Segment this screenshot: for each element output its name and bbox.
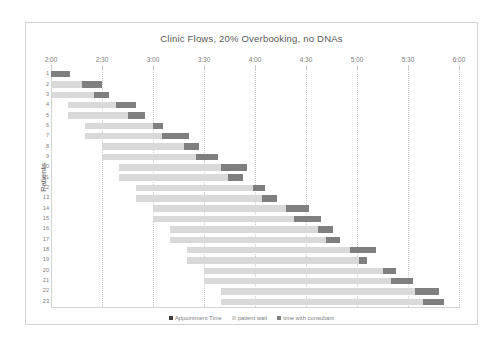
plot-area: 2:002:303:003:304:004:305:005:306:001234…: [51, 69, 459, 307]
x-axis-tick-label: 2:00: [45, 56, 58, 63]
patient-wait-bar: [204, 278, 391, 284]
patient-wait-bar: [221, 299, 423, 305]
y-axis-tick-label: 16: [43, 226, 49, 232]
consultant-time-bar: [423, 299, 443, 305]
chart-title: Clinic Flows, 20% Overbooking, no DNAs: [26, 33, 477, 44]
patient-wait-bar: [102, 154, 196, 160]
legend-item: Appointment Time: [169, 315, 222, 321]
consultant-time-bar: [94, 92, 109, 98]
patient-wait-bar: [85, 123, 153, 129]
consultant-time-bar: [253, 185, 265, 191]
patient-wait-bar: [187, 257, 359, 263]
x-axis-tick-label: 4:00: [249, 56, 262, 63]
y-axis-tick-label: 23: [43, 299, 49, 305]
patient-wait-bar: [170, 226, 318, 232]
consultant-time-bar: [294, 216, 321, 222]
consultant-time-bar: [326, 237, 340, 243]
x-axis-tick: [306, 65, 307, 69]
consultant-time-bar: [286, 205, 310, 211]
patient-wait-bar: [119, 164, 221, 170]
patient-wait-bar: [204, 268, 383, 274]
patient-wait-bar: [68, 112, 128, 118]
y-axis-tick-label: 3: [46, 92, 49, 98]
consultant-time-bar: [350, 247, 376, 253]
y-axis-tick-label: 22: [43, 288, 49, 294]
y-axis-tick-label: 5: [46, 113, 49, 119]
y-axis-tick-label: 7: [46, 133, 49, 139]
patient-wait-bar: [51, 92, 94, 98]
legend-label: patient wait: [238, 315, 267, 321]
x-axis-tick-label: 4:30: [300, 56, 313, 63]
patient-wait-bar: [221, 288, 415, 294]
y-axis-tick-label: 11: [43, 175, 49, 181]
x-axis-tick: [357, 65, 358, 69]
consultant-time-bar: [228, 174, 243, 180]
y-axis-tick-label: 8: [46, 144, 49, 150]
y-axis-tick-label: 18: [43, 247, 49, 253]
x-axis-tick-label: 5:00: [351, 56, 364, 63]
patient-wait-bar: [153, 205, 286, 211]
x-axis-tick: [102, 65, 103, 69]
consultant-time-bar: [391, 278, 413, 284]
consultant-time-bar: [82, 81, 102, 87]
x-axis-tick: [51, 65, 52, 69]
patient-wait-bar: [187, 247, 350, 253]
consultant-time-bar: [262, 195, 277, 201]
x-axis-line: [51, 307, 460, 308]
legend-swatch-icon: [169, 316, 173, 320]
y-axis-tick-label: 13: [43, 195, 49, 201]
consultant-time-bar: [128, 112, 145, 118]
patient-wait-bar: [170, 237, 326, 243]
x-gridline: [459, 69, 461, 307]
x-axis-tick-label: 6:00: [453, 56, 466, 63]
consultant-time-bar: [184, 143, 199, 149]
x-axis-tick: [408, 65, 409, 69]
consultant-time-bar: [162, 133, 189, 139]
consultant-time-bar: [116, 102, 136, 108]
legend-item: patient wait: [232, 315, 267, 321]
consultant-time-bar: [318, 226, 333, 232]
x-axis-tick-label: 3:30: [198, 56, 211, 63]
legend-label: time with consultant: [283, 315, 334, 321]
y-axis-tick-label: 14: [43, 206, 49, 212]
legend-label: Appointment Time: [175, 315, 222, 321]
chart-container: Clinic Flows, 20% Overbooking, no DNAs P…: [25, 22, 478, 325]
x-axis-tick: [153, 65, 154, 69]
y-axis-tick-label: 2: [46, 82, 49, 88]
consultant-time-bar: [51, 71, 70, 77]
x-axis-tick-label: 2:30: [96, 56, 109, 63]
patient-wait-bar: [136, 185, 253, 191]
chart-legend: Appointment Timepatient waittime with co…: [26, 315, 477, 321]
patient-wait-bar: [102, 143, 184, 149]
legend-swatch-icon: [277, 316, 281, 320]
y-axis-tick-label: 21: [43, 278, 49, 284]
y-axis-tick-label: 19: [43, 257, 49, 263]
consultant-time-bar: [196, 154, 218, 160]
consultant-time-bar: [415, 288, 439, 294]
patient-wait-bar: [119, 174, 228, 180]
consultant-time-bar: [153, 123, 163, 129]
patient-wait-bar: [51, 81, 82, 87]
x-axis-tick: [459, 65, 460, 69]
x-axis-tick: [204, 65, 205, 69]
y-axis-tick-label: 6: [46, 123, 49, 129]
x-axis-tick-label: 5:30: [402, 56, 415, 63]
x-gridline: [408, 69, 410, 307]
y-axis-tick-label: 17: [43, 237, 49, 243]
x-axis-tick: [255, 65, 256, 69]
patient-wait-bar: [153, 216, 294, 222]
y-axis-tick-label: 10: [43, 164, 49, 170]
consultant-time-bar: [359, 257, 368, 263]
patient-wait-bar: [68, 102, 116, 108]
patient-wait-bar: [85, 133, 162, 139]
y-axis-tick-label: 12: [43, 185, 49, 191]
y-axis-tick-label: 9: [46, 154, 49, 160]
x-axis-tick-label: 3:00: [147, 56, 160, 63]
legend-swatch-icon: [232, 316, 236, 320]
legend-item: time with consultant: [277, 315, 334, 321]
patient-wait-bar: [136, 195, 262, 201]
y-axis-tick-label: 4: [46, 102, 49, 108]
consultant-time-bar: [221, 164, 247, 170]
y-axis-tick-label: 1: [46, 71, 49, 77]
consultant-time-bar: [383, 268, 397, 274]
